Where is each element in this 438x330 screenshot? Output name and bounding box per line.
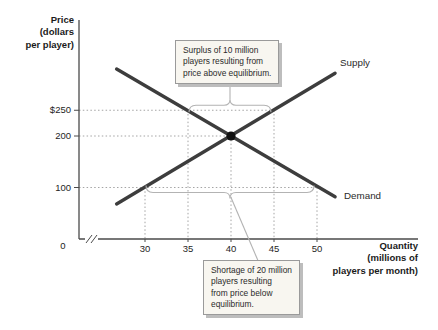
- x-tick-label-40: 40: [226, 243, 237, 254]
- y-tick-label-100: 100: [55, 182, 71, 193]
- y-axis-title: Price (dollars per player): [0, 14, 74, 51]
- x-tick-label-50: 50: [312, 243, 323, 254]
- supply-curve: [117, 73, 335, 204]
- supply-curve-label: Supply: [340, 57, 370, 68]
- surplus-annotation-box: Surplus of 10 million players resulting …: [175, 40, 279, 84]
- x-tick-label-35: 35: [183, 243, 194, 254]
- shortage-annotation-box: Shortage of 20 million players resulting…: [203, 260, 300, 315]
- supply-demand-figure: $2502001003035404550 Price (dollars per …: [0, 0, 438, 330]
- equilibrium-point: [226, 131, 235, 140]
- demand-curve-label: Demand: [344, 190, 381, 201]
- x-tick-label-30: 30: [140, 243, 151, 254]
- origin-label: 0: [56, 240, 70, 251]
- y-tick-label-200: 200: [55, 130, 71, 141]
- x-tick-label-45: 45: [269, 243, 280, 254]
- demand-curve: [117, 69, 335, 197]
- y-tick-label-250: $250: [50, 104, 71, 115]
- x-axis-title: Quantity (millions of players per month): [332, 240, 418, 277]
